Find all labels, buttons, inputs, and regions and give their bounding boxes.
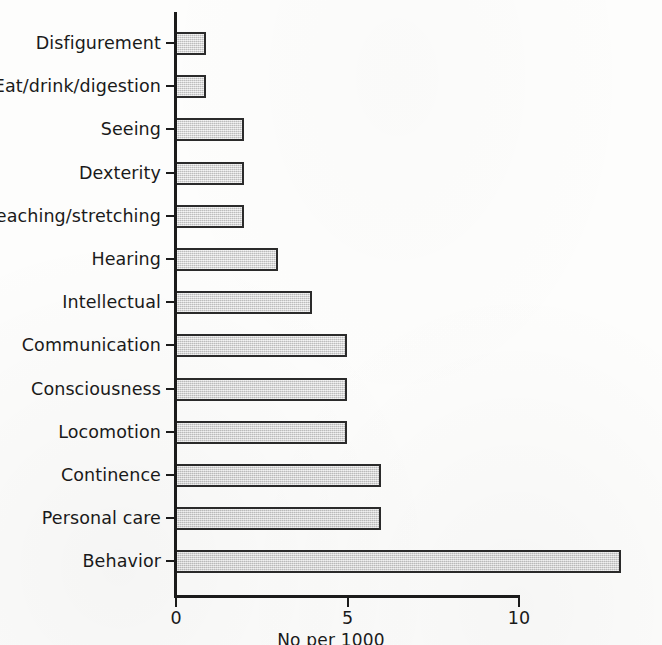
bar bbox=[175, 291, 312, 314]
bar-row: Personal care bbox=[0, 505, 662, 531]
bar-row: Intellectual bbox=[0, 289, 662, 315]
bar bbox=[175, 32, 206, 55]
bar bbox=[175, 464, 381, 487]
bar-row: Reaching/stretching bbox=[0, 203, 662, 229]
category-label: Personal care bbox=[42, 505, 174, 531]
x-axis-title: No per 1000 bbox=[0, 630, 662, 645]
bar bbox=[175, 162, 244, 185]
bar-chart-figure: DisfigurementEat/drink/digestionSeeingDe… bbox=[0, 0, 662, 645]
plot-area: DisfigurementEat/drink/digestionSeeingDe… bbox=[0, 0, 662, 645]
category-label: Locomotion bbox=[58, 419, 174, 445]
bar bbox=[175, 507, 381, 530]
category-label: Consciousness bbox=[31, 376, 174, 402]
x-axis-tick-mark bbox=[518, 598, 520, 607]
bar bbox=[175, 550, 621, 573]
bar-row: Locomotion bbox=[0, 419, 662, 445]
category-label: Dexterity bbox=[79, 160, 174, 186]
bar bbox=[175, 334, 347, 357]
x-axis-tick-mark bbox=[347, 598, 349, 607]
bar-row: Continence bbox=[0, 462, 662, 488]
category-label: Behavior bbox=[82, 548, 174, 574]
x-axis-tick-label: 5 bbox=[318, 608, 378, 628]
category-label: Seeing bbox=[101, 116, 174, 142]
bar-row: Behavior bbox=[0, 548, 662, 574]
bar-row: Disfigurement bbox=[0, 30, 662, 56]
x-axis-tick-label: 10 bbox=[489, 608, 549, 628]
bar-row: Communication bbox=[0, 332, 662, 358]
category-label: Continence bbox=[61, 462, 174, 488]
bar bbox=[175, 205, 244, 228]
x-axis-tick-label: 0 bbox=[146, 608, 206, 628]
category-label: Communication bbox=[22, 332, 174, 358]
bar bbox=[175, 75, 206, 98]
bar bbox=[175, 421, 347, 444]
category-label: Hearing bbox=[91, 246, 174, 272]
bar-row: Eat/drink/digestion bbox=[0, 73, 662, 99]
category-label: Disfigurement bbox=[36, 30, 174, 56]
y-axis-line bbox=[174, 12, 177, 598]
x-axis-tick-mark bbox=[175, 598, 177, 607]
bar bbox=[175, 118, 244, 141]
bar-row: Consciousness bbox=[0, 376, 662, 402]
bar bbox=[175, 248, 278, 271]
category-label: Intellectual bbox=[62, 289, 174, 315]
category-label: Reaching/stretching bbox=[0, 203, 174, 229]
category-label: Eat/drink/digestion bbox=[0, 73, 174, 99]
bar-row: Seeing bbox=[0, 116, 662, 142]
bar-row: Dexterity bbox=[0, 160, 662, 186]
bar-row: Hearing bbox=[0, 246, 662, 272]
bar bbox=[175, 378, 347, 401]
